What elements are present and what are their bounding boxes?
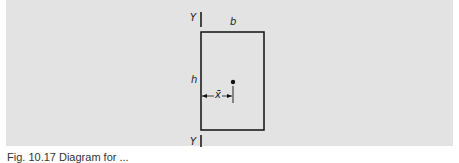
arrow-right-icon [227,94,232,98]
centroid-dot [231,80,235,84]
centroid-offset-label: x̄ [214,90,222,100]
figure-caption: Fig. 10.17 Diagram for ... [7,151,129,163]
height-label: h [191,75,197,85]
y-axis-bottom-label: Y [190,137,196,147]
width-label: b [230,17,236,27]
arrow-left-icon [202,94,207,98]
y-axis-top-label: Y [190,13,196,23]
